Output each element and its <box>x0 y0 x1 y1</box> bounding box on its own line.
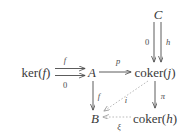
label-ker-to-A-top: f <box>64 56 66 65</box>
node-ker-f-prefix: ker( <box>22 65 43 80</box>
node-C: C <box>154 8 163 21</box>
node-coker-h-suffix: ) <box>173 111 177 126</box>
node-ker-f: ker(f) <box>22 66 51 79</box>
label-cokerj-to-cokerh: π <box>161 92 165 101</box>
label-A-to-B: f <box>98 92 100 101</box>
node-coker-j-suffix: ) <box>171 65 175 80</box>
node-coker-h-prefix: coker( <box>133 111 166 126</box>
node-coker-j-prefix: coker( <box>134 65 167 80</box>
label-C-to-cokerj-right: h <box>166 38 170 47</box>
label-C-to-cokerj-left: 0 <box>145 38 149 47</box>
label-ker-to-A-bottom: 0 <box>63 81 67 90</box>
node-ker-f-suffix: ) <box>46 65 50 80</box>
node-coker-j: coker(j) <box>134 66 175 79</box>
node-coker-h: coker(h) <box>133 112 177 125</box>
label-cokerh-to-B: ξ <box>117 123 121 132</box>
node-A: A <box>88 66 96 79</box>
label-A-to-cokerj: p <box>116 57 120 66</box>
node-B: B <box>91 112 99 125</box>
commutative-diagram: ker(f) A coker(j) C B coker(h) f 0 p 0 h… <box>0 0 191 133</box>
label-cokerj-to-B: i <box>125 96 127 105</box>
